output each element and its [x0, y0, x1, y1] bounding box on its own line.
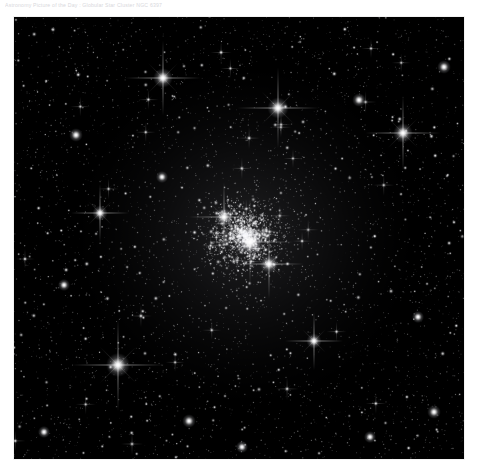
star-field-canvas	[14, 17, 464, 459]
sky-canvas-wrapper	[14, 17, 464, 459]
image-caption: Astronomy Picture of the Day : Globular …	[5, 0, 305, 11]
star-cluster-image	[14, 17, 464, 459]
page-root: Astronomy Picture of the Day : Globular …	[0, 0, 477, 470]
